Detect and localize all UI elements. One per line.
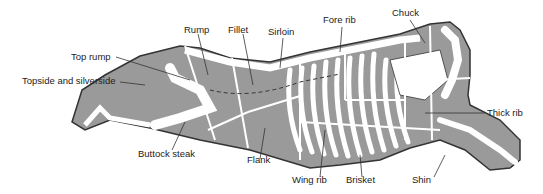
- label-shin: Shin: [412, 174, 431, 185]
- label-wing-rib: Wing rib: [292, 174, 327, 185]
- label-fore-rib: Fore rib: [323, 14, 356, 25]
- label-top-rump: Top rump: [71, 51, 111, 62]
- label-chuck: Chuck: [392, 7, 419, 18]
- label-flank: Flank: [247, 154, 270, 165]
- label-topside-and-silverside: Topside and silverside: [22, 75, 115, 86]
- label-thick-rib: Thick rib: [487, 107, 523, 118]
- label-rump: Rump: [184, 24, 209, 35]
- label-fillet: Fillet: [228, 24, 248, 35]
- label-brisket: Brisket: [346, 174, 375, 185]
- label-sirloin: Sirloin: [268, 26, 294, 37]
- beef-cuts-diagram: Rump Fillet Sirloin Fore rib Chuck Top r…: [0, 0, 543, 194]
- label-buttock-steak: Buttock steak: [138, 148, 195, 159]
